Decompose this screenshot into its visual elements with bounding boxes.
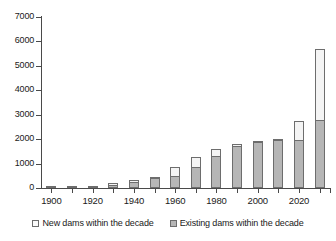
chart-legend: New dams within the decadeExisting dams …: [0, 218, 336, 228]
y-axis-tick-label: 1000: [0, 159, 34, 168]
y-axis-tick-label: 2000: [0, 134, 34, 143]
bar-2010: [273, 140, 283, 188]
y-axis-tick-label-text: 4000: [1, 85, 34, 94]
x-axis-tick: [134, 189, 135, 193]
y-axis-tick-label-text: 7000: [1, 12, 34, 21]
bar-2000: [253, 140, 263, 188]
bar-segment-new: [170, 167, 180, 177]
x-axis-tick-label: 1940: [114, 195, 154, 206]
bar-segment-new: [232, 144, 242, 148]
bar-segment-new: [315, 49, 325, 122]
x-axis-tick-label: 1980: [196, 195, 236, 206]
y-axis-tick-label: 7000: [0, 12, 34, 21]
y-axis-tick-label: 3000: [0, 110, 34, 119]
bar-segment-new: [108, 183, 118, 186]
bar-segment-new: [67, 186, 77, 188]
bar-1930: [108, 182, 118, 188]
bar-1980: [211, 148, 221, 188]
bar-1960: [170, 166, 180, 188]
y-axis-tick-label-text: 2000: [1, 134, 34, 143]
bar-1910: [67, 187, 77, 188]
bar-segment-new: [253, 141, 263, 143]
legend-swatch-new-icon: [32, 220, 39, 227]
y-axis-tick-label: 4000: [0, 85, 34, 94]
y-axis-tick-label-text: 1000: [1, 159, 34, 168]
bar-segment-existing: [232, 146, 242, 188]
y-axis-tick: [36, 188, 41, 189]
x-axis-tick: [237, 189, 238, 193]
bar-1920: [88, 186, 98, 188]
x-axis-tick: [299, 189, 300, 193]
bar-segment-new: [129, 180, 139, 183]
bar-segment-existing: [211, 156, 221, 188]
x-axis-tick: [330, 189, 331, 193]
bar-1970: [191, 156, 201, 188]
bar-segment-new: [191, 157, 201, 168]
x-axis-tick: [175, 189, 176, 193]
legend-swatch-existing-icon: [170, 220, 177, 227]
x-axis-tick: [278, 189, 279, 193]
y-axis-tick-label: 5000: [0, 61, 34, 70]
bar-segment-existing: [273, 140, 283, 188]
bar-segment-new: [150, 177, 160, 179]
bar-segment-new: [294, 121, 304, 141]
x-axis-tick: [258, 189, 259, 193]
x-axis-line: [41, 188, 331, 189]
bar-segment-existing: [191, 167, 201, 188]
x-axis-tick: [320, 189, 321, 193]
x-axis-tick-label: 2020: [279, 195, 319, 206]
bar-segment-new: [211, 149, 221, 157]
bar-segment-new: [273, 139, 283, 141]
dams-stacked-bar-chart: 01000200030004000500060007000 1900192019…: [0, 0, 336, 241]
legend-label: New dams within the decade: [42, 218, 153, 228]
x-axis-tick: [72, 189, 73, 193]
x-axis-tick: [51, 189, 52, 193]
bar-2020: [294, 120, 304, 188]
x-axis-tick-label: 2000: [238, 195, 278, 206]
y-axis-tick-label-text: 6000: [1, 36, 34, 45]
bar-2030: [315, 48, 325, 188]
x-axis-tick: [155, 189, 156, 193]
bar-segment-new: [88, 186, 98, 188]
bar-1900: [46, 187, 56, 188]
y-axis-tick-label: 0: [0, 183, 34, 192]
bar-segment-existing: [253, 142, 263, 188]
legend-label: Existing dams within the decade: [180, 218, 304, 228]
plot-area: [41, 17, 330, 188]
legend-item-new[interactable]: New dams within the decade: [32, 218, 153, 228]
x-axis-tick-label: 1920: [73, 195, 113, 206]
x-axis-tick: [93, 189, 94, 193]
y-axis-tick-label-text: 3000: [1, 110, 34, 119]
x-axis-tick-label: 1960: [155, 195, 195, 206]
bar-1950: [150, 176, 160, 188]
y-axis-tick-label: 6000: [0, 36, 34, 45]
bar-1990: [232, 143, 242, 188]
bar-segment-existing: [294, 140, 304, 188]
x-axis-tick: [216, 189, 217, 193]
x-axis-tick: [196, 189, 197, 193]
x-axis-tick-label: 1900: [31, 195, 71, 206]
bar-1940: [129, 179, 139, 188]
y-axis-tick-label-text: 0: [1, 183, 34, 192]
bar-segment-existing: [170, 176, 180, 188]
legend-item-existing[interactable]: Existing dams within the decade: [170, 218, 304, 228]
y-axis-tick-label-text: 5000: [1, 61, 34, 70]
x-axis-tick: [113, 189, 114, 193]
bar-segment-new: [46, 186, 56, 188]
bar-segment-existing: [150, 178, 160, 188]
bar-segment-existing: [315, 120, 325, 188]
